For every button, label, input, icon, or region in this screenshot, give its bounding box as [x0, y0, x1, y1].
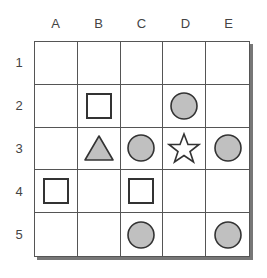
col-label-e: E — [207, 16, 250, 31]
grid-cell-b3 — [78, 128, 121, 171]
square-icon — [85, 92, 113, 120]
star-icon — [167, 132, 201, 164]
circle-icon — [169, 91, 199, 121]
grid-cell-c3 — [121, 128, 164, 171]
grid-cell-e3 — [206, 128, 249, 171]
circle-icon — [126, 133, 156, 163]
grid-cell-e5 — [206, 213, 249, 256]
grid-cell-b2 — [78, 85, 121, 128]
grid-cell-c5 — [121, 213, 164, 256]
grid-cell-c4 — [121, 170, 164, 213]
row-label-5: 5 — [12, 227, 26, 242]
grid-cell-b4 — [78, 170, 121, 213]
grid-cell-c1 — [121, 42, 164, 85]
grid-cell-d1 — [163, 42, 206, 85]
row-label-3: 3 — [12, 141, 26, 156]
grid-cell-e2 — [206, 85, 249, 128]
circle-icon — [126, 220, 156, 250]
grid-cell-c2 — [121, 85, 164, 128]
circle-icon — [213, 133, 243, 163]
grid-cell-d2 — [163, 85, 206, 128]
grid-cell-d3 — [163, 128, 206, 171]
square-icon — [127, 177, 155, 205]
grid-cell-a2 — [35, 85, 78, 128]
grid-cell-e4 — [206, 170, 249, 213]
grid-cell-b1 — [78, 42, 121, 85]
grid-cell-d5 — [163, 213, 206, 256]
col-label-b: B — [77, 16, 120, 31]
row-label-4: 4 — [12, 184, 26, 199]
grid-cell-b5 — [78, 213, 121, 256]
grid-cell-a5 — [35, 213, 78, 256]
row-label-2: 2 — [12, 98, 26, 113]
triangle-icon — [83, 134, 115, 162]
grid-cell-d4 — [163, 170, 206, 213]
circle-icon — [213, 220, 243, 250]
grid-cell-e1 — [206, 42, 249, 85]
row-label-1: 1 — [12, 55, 26, 70]
puzzle-grid — [34, 41, 250, 257]
grid-cell-a4 — [35, 170, 78, 213]
grid-cell-a1 — [35, 42, 78, 85]
square-icon — [42, 177, 70, 205]
grid-cell-a3 — [35, 128, 78, 171]
col-label-a: A — [34, 16, 77, 31]
col-label-d: D — [164, 16, 207, 31]
col-label-c: C — [120, 16, 163, 31]
